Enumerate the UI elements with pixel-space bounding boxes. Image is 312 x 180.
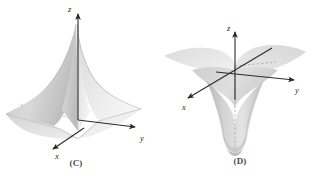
y-axis-label-d: y bbox=[294, 85, 299, 95]
y-axis-label-c: y bbox=[139, 133, 144, 143]
figure-c-caption: (C) bbox=[0, 158, 154, 168]
figure-d-canvas: z y x bbox=[156, 0, 312, 180]
figure-c: z y x (C) bbox=[0, 0, 156, 180]
x-axis-label-d: x bbox=[181, 102, 186, 112]
z-axis-label-c: z bbox=[67, 4, 72, 14]
figure-panel: z y x (C) bbox=[0, 0, 312, 180]
z-axis-label-d: z bbox=[226, 23, 231, 33]
figure-c-canvas: z y x bbox=[0, 0, 156, 180]
figure-d-caption: (D) bbox=[162, 156, 312, 166]
figure-d: z y x (D) bbox=[156, 0, 312, 180]
